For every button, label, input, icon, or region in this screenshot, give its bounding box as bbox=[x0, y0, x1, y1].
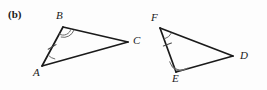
edge-bc bbox=[63, 27, 128, 42]
angle-arc-f bbox=[164, 33, 172, 39]
vertex-label-c: C bbox=[133, 35, 140, 46]
triangle-def bbox=[160, 28, 233, 72]
vertex-label-d: D bbox=[240, 50, 248, 61]
vertex-label-b: B bbox=[56, 10, 63, 21]
edge-fe bbox=[160, 28, 176, 72]
triangle-abc bbox=[42, 27, 128, 66]
edge-fd bbox=[160, 28, 233, 56]
angle-arc-a bbox=[48, 55, 55, 59]
tick-mark-fe bbox=[163, 43, 171, 46]
vertex-label-a: A bbox=[33, 67, 40, 78]
part-label: (b) bbox=[8, 8, 21, 20]
geometry-figure: (b) B A C F E D bbox=[0, 0, 267, 90]
vertex-label-e: E bbox=[172, 73, 179, 84]
vertex-label-f: F bbox=[151, 12, 158, 23]
